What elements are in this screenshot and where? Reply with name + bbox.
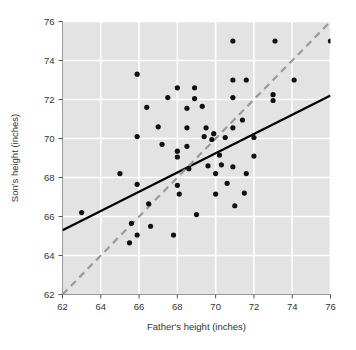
y-axis-title: Son's height (inches): [9, 114, 20, 202]
data-point: [213, 191, 218, 196]
data-point: [202, 134, 207, 139]
data-point: [200, 104, 205, 109]
data-point: [175, 149, 180, 154]
data-point: [213, 171, 218, 176]
x-tick-label: 68: [172, 301, 183, 312]
data-point: [175, 154, 180, 159]
y-tick-label: 76: [44, 16, 55, 27]
data-point: [272, 38, 277, 43]
data-point: [242, 191, 247, 196]
data-point: [192, 85, 197, 90]
data-point: [129, 221, 134, 226]
data-point: [175, 85, 180, 90]
x-tick-label: 72: [249, 301, 260, 312]
x-tick-label: 74: [287, 301, 298, 312]
data-point: [230, 125, 235, 130]
x-tick-label: 70: [210, 301, 221, 312]
data-point: [217, 152, 222, 157]
data-point: [171, 232, 176, 237]
data-point: [186, 166, 191, 171]
y-tick-label: 72: [44, 94, 55, 105]
y-tick-label: 70: [44, 133, 55, 144]
data-point: [219, 162, 224, 167]
y-tick-label: 66: [44, 211, 55, 222]
data-point: [175, 183, 180, 188]
x-tick-label: 64: [95, 301, 106, 312]
x-axis-title: Father's height (inches): [147, 321, 246, 332]
chart-canvas: 6264666870727476 6264666870727476 Father…: [0, 0, 356, 350]
data-point: [244, 77, 249, 82]
y-tick-label: 64: [44, 250, 55, 261]
data-point: [251, 135, 256, 140]
data-point: [192, 96, 197, 101]
data-point: [270, 98, 275, 103]
y-tick-label: 62: [44, 289, 55, 300]
data-point: [209, 137, 214, 142]
data-point: [203, 125, 208, 130]
data-point: [194, 212, 199, 217]
data-point: [205, 163, 210, 168]
data-point: [135, 134, 140, 139]
y-tick-label: 68: [44, 172, 55, 183]
data-point: [79, 210, 84, 215]
data-point: [251, 153, 256, 158]
data-point: [232, 203, 237, 208]
data-point: [223, 135, 228, 140]
data-point: [146, 201, 151, 206]
data-point: [184, 125, 189, 130]
data-point: [135, 72, 140, 77]
data-point: [127, 240, 132, 245]
y-axis-tick-labels: 6264666870727476: [44, 16, 55, 300]
data-point: [156, 124, 161, 129]
x-tick-label: 76: [325, 301, 336, 312]
x-axis-tick-labels: 6264666870727476: [57, 301, 336, 312]
data-point: [135, 182, 140, 187]
data-point: [165, 95, 170, 100]
x-tick-label: 66: [134, 301, 145, 312]
data-point: [225, 181, 230, 186]
data-point: [230, 38, 235, 43]
x-tick-label: 62: [57, 301, 68, 312]
data-point: [240, 117, 245, 122]
data-point: [135, 232, 140, 237]
data-point: [270, 92, 275, 97]
data-point: [148, 224, 153, 229]
data-point: [117, 171, 122, 176]
data-point: [144, 105, 149, 110]
y-tick-label: 74: [44, 55, 55, 66]
data-point: [230, 95, 235, 100]
data-point: [211, 131, 216, 136]
data-point: [177, 191, 182, 196]
data-point: [184, 144, 189, 149]
data-point: [292, 77, 297, 82]
data-point: [230, 164, 235, 169]
data-point: [244, 171, 249, 176]
data-point: [184, 106, 189, 111]
data-point: [230, 77, 235, 82]
data-point: [159, 142, 164, 147]
data-point: [328, 38, 333, 43]
scatter-plot-figure: 6264666870727476 6264666870727476 Father…: [0, 0, 356, 350]
